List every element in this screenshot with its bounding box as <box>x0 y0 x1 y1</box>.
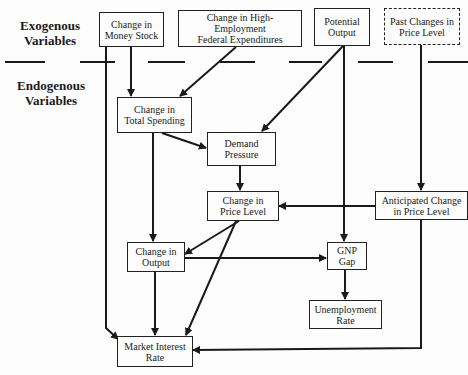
node-text: Output <box>136 257 177 268</box>
node-text: Gap <box>337 256 357 267</box>
node-change-in-fed-expenditures: Change in High-EmploymentFederal Expendi… <box>178 10 302 47</box>
node-text: Money Stock <box>105 30 159 41</box>
node-change-in-money-stock: Change inMoney Stock <box>99 12 164 47</box>
node-demand-pressure: DemandPressure <box>207 132 276 166</box>
node-text: Rate <box>314 315 376 326</box>
node-text: Total Spending <box>124 115 185 126</box>
node-text: Potential <box>324 16 360 27</box>
edge-spending-to-demand <box>162 133 206 148</box>
node-text: Unemployment <box>314 304 376 315</box>
node-change-in-total-spending: Change inTotal Spending <box>117 97 192 133</box>
node-market-interest-rate: Market InterestRate <box>117 336 193 367</box>
node-past-changes-in-price-level: Past Changes inPrice Level <box>384 8 460 45</box>
node-text: Federal Expenditures <box>181 34 299 45</box>
node-text: in Price Level <box>382 206 462 217</box>
node-text: Pressure <box>225 149 259 160</box>
node-change-in-output: Change inOutput <box>127 242 185 272</box>
node-text: Change in <box>124 104 185 115</box>
node-text: Change in High-Employment <box>181 12 299 34</box>
edge-fed-to-spending <box>180 47 236 96</box>
node-text: Demand <box>225 138 259 149</box>
node-text: Change in <box>220 195 266 206</box>
diagram-edges <box>0 0 468 375</box>
edge-potential-to-demand <box>262 46 343 131</box>
node-text: Change in <box>136 246 177 257</box>
node-text: Past Changes in <box>390 16 454 27</box>
node-text: Output <box>324 27 360 38</box>
node-anticipated-change-in-price-level: Anticipated Changein Price Level <box>375 191 468 220</box>
node-change-in-price-level: Change inPrice Level <box>207 191 279 221</box>
node-text: Market Interest <box>124 341 185 352</box>
node-text: Change in <box>105 19 159 30</box>
node-gnp-gap: GNPGap <box>327 242 367 270</box>
node-text: Price Level <box>390 27 454 38</box>
node-potential-output: PotentialOutput <box>314 8 370 46</box>
node-text: Rate <box>124 352 185 363</box>
node-text: Price Level <box>220 206 266 217</box>
node-text: GNP <box>337 245 357 256</box>
node-unemployment-rate: UnemploymentRate <box>309 300 382 329</box>
edge-money-to-interest <box>106 47 118 339</box>
node-text: Anticipated Change <box>382 195 462 206</box>
edge-price-to-output <box>185 221 239 254</box>
